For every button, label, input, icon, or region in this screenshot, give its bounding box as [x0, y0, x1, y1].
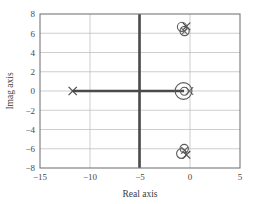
y-tick-label: 4 [31, 48, 36, 58]
y-axis-title: Imag axis [5, 72, 15, 110]
y-tick-label: −4 [25, 125, 35, 135]
x-tick-label: −10 [83, 172, 98, 182]
y-tick-labels: 8 6 4 2 0 −2 −4 −6 −8 [25, 9, 35, 173]
y-tick-label: 8 [31, 9, 36, 19]
x-tick-label: −5 [135, 172, 145, 182]
x-tick-label: 0 [188, 172, 193, 182]
x-tick-labels: −15 −10 −5 0 5 [33, 172, 243, 182]
x-tick-label: −15 [33, 172, 48, 182]
y-tick-label: −2 [25, 106, 35, 116]
x-axis-title: Real axis [122, 189, 157, 199]
x-tick-label: 5 [238, 172, 243, 182]
pole-zero-plot-svg: −15 −10 −5 0 5 8 6 4 2 0 −2 −4 −6 −8 Rea… [0, 0, 254, 204]
pole-zero-plot-figure: −15 −10 −5 0 5 8 6 4 2 0 −2 −4 −6 −8 Rea… [0, 0, 254, 204]
y-tick-label: 0 [31, 86, 36, 96]
y-tick-label: 6 [31, 29, 36, 39]
y-tick-label: 2 [31, 67, 36, 77]
y-tick-label: −6 [25, 144, 35, 154]
y-tick-label: −8 [25, 163, 35, 173]
